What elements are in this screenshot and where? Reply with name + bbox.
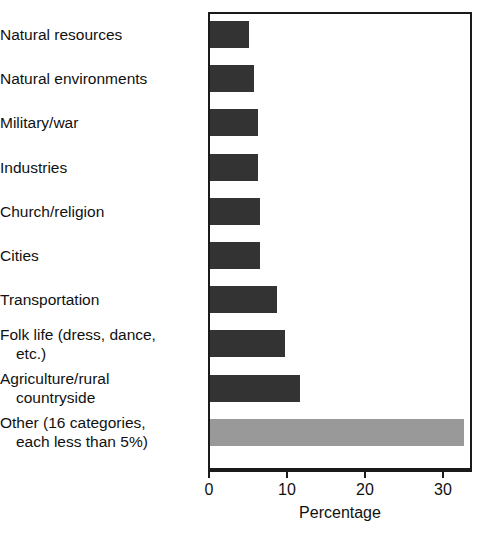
bar [210,419,464,446]
category-label: Agriculture/ruralcountryside [0,369,198,407]
category-label-line1: Transportation [0,291,99,308]
category-label-line1: Military/war [0,114,78,131]
category-label-line1: Natural resources [0,26,122,43]
category-label: Church/religion [0,202,198,221]
category-label-line2: countryside [0,388,198,407]
category-label-line1: Folk life (dress, dance, [0,326,156,343]
category-label: Natural environments [0,69,198,88]
category-label-line1: Other (16 categories, [0,414,146,431]
bar [210,109,258,136]
category-label-line1: Industries [0,159,67,176]
bar [210,375,300,402]
bar [210,330,285,357]
x-axis-tick-mark [364,470,366,478]
category-label: Military/war [0,113,198,132]
bar [210,21,249,48]
category-label-line2: etc.) [0,344,198,363]
x-axis-tick-label: 20 [345,480,385,499]
x-axis-tick-mark [442,470,444,478]
category-label: Folk life (dress, dance,etc.) [0,325,198,363]
category-label-line1: Cities [0,247,39,264]
bar [210,65,254,92]
bar [210,198,260,225]
category-label-line1: Natural environments [0,70,147,87]
category-label-list: Natural resourcesNatural environmentsMil… [0,0,204,470]
bars-layer [210,14,470,468]
category-label-line1: Church/religion [0,203,104,220]
x-axis-tick-label: 10 [267,480,307,499]
bar-chart: Natural resourcesNatural environmentsMil… [0,0,490,533]
category-label: Other (16 categories,each less than 5%) [0,413,198,451]
category-label: Industries [0,158,198,177]
category-label: Natural resources [0,25,198,44]
x-axis-tick-label: 0 [189,480,229,499]
bar [210,154,258,181]
category-label: Transportation [0,290,198,309]
category-label-line1: Agriculture/rural [0,370,109,387]
bar [210,286,277,313]
x-axis-tick-label: 30 [423,480,463,499]
x-axis-title: Percentage [208,503,472,522]
x-axis-tick-mark [208,470,210,478]
category-label: Cities [0,246,198,265]
x-axis-tick-mark [286,470,288,478]
bar [210,242,260,269]
x-axis-line [208,470,472,472]
category-label-line2: each less than 5%) [0,432,198,451]
